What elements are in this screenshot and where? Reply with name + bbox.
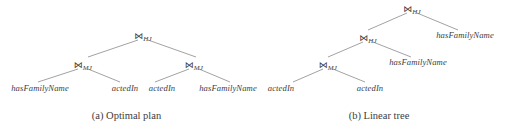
join-subscript: MJ (83, 64, 92, 72)
leaf-node-actedin-2: actedIn (357, 84, 383, 93)
join-symbol-icon: ⋈ (403, 4, 412, 14)
join-subscript: MJ (328, 64, 337, 72)
join-symbol-icon: ⋈ (74, 60, 83, 70)
edge-lowjoin-leaf2 (333, 69, 365, 82)
figure-optimal-plan: ⋈HJ ⋈MJ ⋈MJ hasFamilyName actedIn actedI… (0, 0, 253, 127)
join-node-low: ⋈MJ (319, 60, 337, 72)
join-node-right: ⋈MJ (185, 60, 203, 72)
join-symbol-icon: ⋈ (359, 33, 368, 43)
leaf-node-hasfamilyname-2: hasFamilyName (436, 31, 494, 40)
edge-leftjoin-leaf2 (88, 69, 120, 82)
leaf-node-actedin-1: actedIn (268, 84, 294, 93)
join-subscript: HJ (368, 37, 377, 45)
join-node-root: ⋈HJ (403, 4, 421, 16)
edge-midjoin-leaf3 (373, 42, 411, 57)
edge-leftjoin-leaf1 (38, 69, 78, 82)
join-symbol-icon: ⋈ (134, 31, 143, 41)
edge-root-midjoin (368, 13, 407, 30)
join-subscript: HJ (143, 35, 152, 43)
leaf-node-hasfamilyname-1: hasFamilyName (11, 84, 69, 93)
join-node-mid: ⋈HJ (359, 33, 377, 45)
figure-linear-tree: ⋈HJ ⋈HJ ⋈MJ actedIn actedIn hasFamilyNam… (253, 0, 505, 127)
join-subscript: HJ (412, 8, 421, 16)
join-node-left: ⋈MJ (74, 60, 92, 72)
leaf-node-actedin-2: actedIn (149, 84, 175, 93)
edge-rightjoin-leaf4 (199, 69, 230, 82)
edge-root-right (148, 40, 196, 57)
join-subscript: MJ (194, 64, 203, 72)
edge-midjoin-lowjoin (328, 42, 363, 57)
edge-root-leaf4 (417, 13, 458, 30)
leaf-node-actedin-1: actedIn (112, 84, 138, 93)
figure-caption-a: (a) Optimal plan (0, 111, 253, 122)
edge-root-left (88, 40, 138, 57)
join-symbol-icon: ⋈ (319, 60, 328, 70)
join-node-root: ⋈HJ (134, 31, 152, 43)
leaf-node-hasfamilyname-2: hasFamilyName (199, 84, 257, 93)
join-symbol-icon: ⋈ (185, 60, 194, 70)
leaf-node-hasfamilyname-1: hasFamilyName (389, 58, 447, 67)
figure-caption-b: (b) Linear tree (253, 111, 505, 122)
figure-page: ⋈HJ ⋈MJ ⋈MJ hasFamilyName actedIn actedI… (0, 0, 505, 127)
